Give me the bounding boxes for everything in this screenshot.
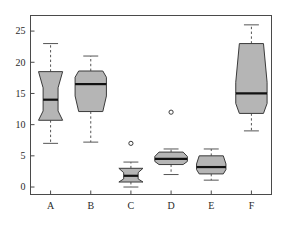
box-body xyxy=(39,72,63,121)
y-tick-label: 25 xyxy=(16,25,26,36)
y-tick-label: 15 xyxy=(16,88,26,99)
y-tick-label: 10 xyxy=(16,119,26,130)
outlier-point xyxy=(129,141,133,145)
y-tick-label: 0 xyxy=(21,181,26,192)
boxplot-canvas: 0510152025 ABCDEF xyxy=(0,0,283,235)
box-group-f xyxy=(236,25,267,131)
box-series xyxy=(39,25,268,187)
box-group-e xyxy=(197,149,226,180)
outlier-point xyxy=(169,110,173,114)
boxplot-chart: 0510152025 ABCDEF xyxy=(0,0,283,235)
x-axis: ABCDEF xyxy=(47,191,255,211)
box-body xyxy=(197,156,226,174)
box-body xyxy=(236,44,267,114)
box-body xyxy=(75,71,106,112)
plot-frame-group xyxy=(31,16,272,195)
x-tick-label-b: B xyxy=(87,200,94,211)
x-tick-label-e: E xyxy=(208,200,214,211)
plot-frame xyxy=(31,16,272,195)
box-group-a xyxy=(39,44,63,144)
x-tick-label-d: D xyxy=(167,200,174,211)
x-tick-label-c: C xyxy=(128,200,135,211)
box-group-b xyxy=(75,56,106,142)
y-tick-label: 20 xyxy=(16,57,26,68)
x-tick-label-f: F xyxy=(249,200,255,211)
box-group-c xyxy=(119,141,143,187)
box-group-d xyxy=(155,110,188,174)
y-axis: 0510152025 xyxy=(16,25,35,192)
x-tick-label-a: A xyxy=(47,200,55,211)
y-tick-label: 5 xyxy=(21,150,26,161)
